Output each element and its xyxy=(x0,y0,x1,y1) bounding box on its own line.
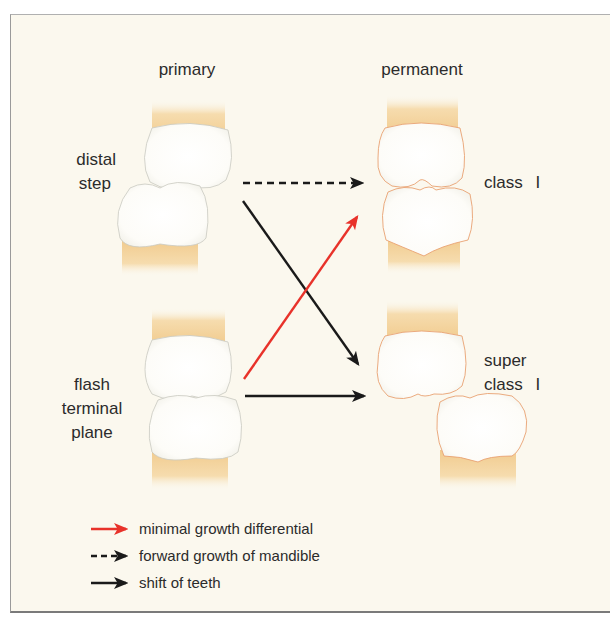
label-super-class-1: class I xyxy=(484,373,540,397)
label-step: step xyxy=(40,172,111,196)
lower-crown xyxy=(149,395,241,460)
upper-crown xyxy=(378,123,465,187)
label-terminal: terminal xyxy=(42,397,142,421)
column-title-permanent: permanent xyxy=(362,58,482,82)
black-arrow-distal-to-superclass1 xyxy=(243,201,358,364)
primary-flash-terminal-plane-teeth xyxy=(145,308,242,490)
lower-crown xyxy=(118,182,208,246)
label-distal: distal xyxy=(40,148,116,172)
lower-crown xyxy=(437,393,527,462)
column-title-primary: primary xyxy=(137,58,237,82)
permanent-class-1-teeth xyxy=(378,95,473,274)
legend-item-minimal-growth-differential: minimal growth differential xyxy=(139,519,313,539)
label-class-1: class I xyxy=(484,171,540,195)
upper-crown xyxy=(377,331,466,399)
label-flash: flash xyxy=(42,373,142,397)
upper-crown xyxy=(145,335,232,399)
red-arrow-flash-to-class1 xyxy=(244,217,357,379)
legend-item-forward-growth-of-mandible: forward growth of mandible xyxy=(139,546,320,566)
label-super: super xyxy=(484,349,527,373)
upper-crown xyxy=(144,123,231,189)
label-plane: plane xyxy=(42,421,142,445)
legend-item-shift-of-teeth: shift of teeth xyxy=(139,573,221,593)
primary-distal-step-teeth xyxy=(118,100,232,276)
